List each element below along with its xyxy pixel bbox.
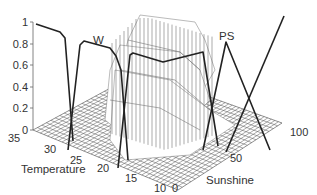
z-tick-0.2: 0.2 [13,102,28,114]
temp-tick-15: 15 [125,172,137,184]
label-ps: PS [219,30,235,42]
label-w: W [93,34,104,46]
temp-tick-35: 35 [8,132,20,144]
sun-tick-0: 0 [172,182,178,194]
sun-tick-50: 50 [230,152,242,164]
z-tick-0.8: 0.8 [13,38,28,50]
temp-tick-10: 10 [154,182,166,194]
z-axis: 1 0.8 0.6 0.4 0.2 0 [13,16,33,136]
sun-tick-100: 100 [290,126,308,138]
fuzzy-surface-chart: 1 0.8 0.6 0.4 0.2 0 W PS 35 30 25 20 15 … [0,0,317,195]
z-tick-0.4: 0.4 [13,81,28,93]
chart-svg: 1 0.8 0.6 0.4 0.2 0 W PS 35 30 25 20 15 … [0,0,317,195]
z-tick-1: 1 [22,16,28,28]
z-tick-0.6: 0.6 [13,59,28,71]
sunshine-axis-label: Sunshine [206,174,254,186]
z-tick-0: 0 [22,124,28,136]
temp-tick-30: 30 [44,143,56,155]
temp-tick-20: 20 [97,162,109,174]
temperature-axis-label: Temperature [21,163,86,175]
